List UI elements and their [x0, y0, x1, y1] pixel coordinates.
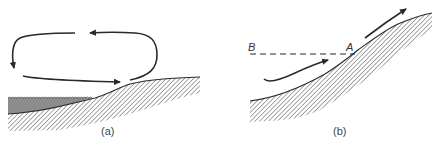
label-b-point: B [248, 41, 255, 53]
loop-arrow-bottom-rightward [23, 76, 120, 82]
loop-arrow-left-descending [13, 33, 75, 68]
water-surface-waves [8, 97, 92, 98]
loop-arrow-right-ascending [90, 32, 157, 80]
label-a-point: A [345, 41, 353, 53]
panel-a: (a) [8, 32, 200, 137]
panel-b: B A (b) [248, 9, 432, 137]
figure-diagram: (a) B A (b) [0, 0, 444, 145]
hatched-slope-ground [250, 13, 432, 122]
caption-a: (a) [101, 125, 114, 137]
caption-b: (b) [333, 125, 346, 137]
